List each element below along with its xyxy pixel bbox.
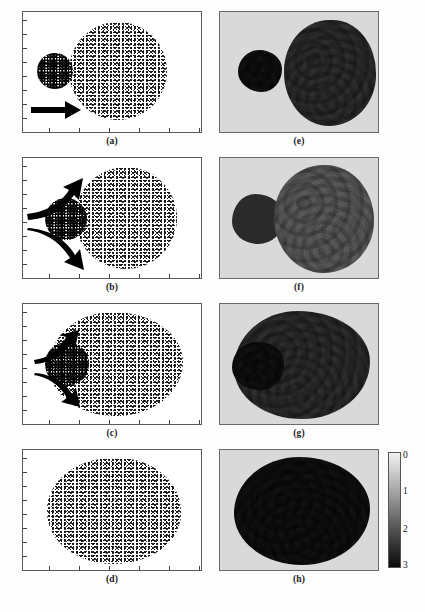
panel-c-plot [23, 304, 201, 424]
colorbar-tick-3: 3 [403, 560, 408, 570]
panel-h [219, 449, 379, 571]
large-aggregate-a [69, 22, 167, 120]
small-aggregate-a [37, 53, 73, 89]
panel-f-caption: (f) [219, 282, 379, 292]
panel-h-caption: (h) [219, 574, 379, 584]
panel-b-caption: (b) [22, 282, 202, 292]
panel-c-caption: (c) [22, 428, 202, 438]
curved-arrow-lower-c [33, 372, 83, 408]
panel-e [219, 11, 379, 133]
merged-aggregate-d [47, 458, 181, 564]
panel-e-plot [220, 12, 378, 132]
panel-a [22, 11, 202, 133]
colorbar-tick-2: 2 [403, 524, 408, 534]
panel-d [22, 449, 202, 571]
panel-d-caption: (d) [22, 574, 202, 584]
panel-g-caption: (g) [219, 428, 379, 438]
panel-a-plot [23, 12, 201, 132]
large-density-blob-e [284, 20, 376, 126]
panel-f [219, 157, 379, 279]
panel-g-plot [220, 304, 378, 424]
curved-arrow-upper-b [25, 178, 87, 220]
panel-b-plot [23, 158, 201, 278]
colorbar-gradient [388, 452, 401, 568]
small-density-blob-e [238, 50, 282, 92]
large-aggregate-b [75, 167, 177, 269]
figure-container: (a) (e) (b [0, 0, 425, 612]
curved-arrow-upper-c [33, 330, 83, 364]
colorbar-tick-labels: 0 1 2 3 [403, 452, 425, 568]
merged-density-blob-h [234, 457, 370, 565]
panel-h-plot [220, 450, 378, 570]
panel-c [22, 303, 202, 425]
curved-arrow-lower-b [25, 228, 87, 272]
colorbar-tick-1: 1 [403, 486, 408, 496]
panel-b [22, 157, 202, 279]
panel-a-caption: (a) [22, 136, 202, 146]
dark-left-lobe-g [232, 342, 284, 390]
colorbar-tick-0: 0 [403, 450, 408, 460]
panel-d-plot [23, 450, 201, 570]
straight-arrow-a [31, 100, 83, 120]
large-density-blob-f [274, 165, 374, 273]
panel-e-caption: (e) [219, 136, 379, 146]
panel-f-plot [220, 158, 378, 278]
density-colorbar: 0 1 2 3 [388, 452, 422, 568]
panel-g [219, 303, 379, 425]
